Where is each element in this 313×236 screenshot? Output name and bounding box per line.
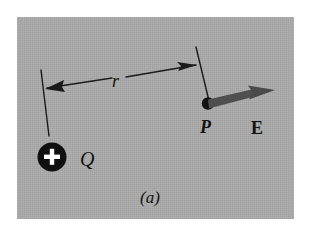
label-field-point: P	[199, 117, 212, 137]
label-charge: Q	[80, 148, 95, 170]
label-field-vector: E	[251, 118, 263, 138]
electric-field-diagram: Q r P E (a)	[0, 0, 313, 236]
point-charge	[38, 143, 67, 172]
figure-caption: (a)	[140, 188, 160, 207]
plus-vertical-bar	[50, 149, 54, 165]
label-distance: r	[112, 71, 120, 91]
figure-root: Q r P E (a)	[0, 0, 313, 236]
